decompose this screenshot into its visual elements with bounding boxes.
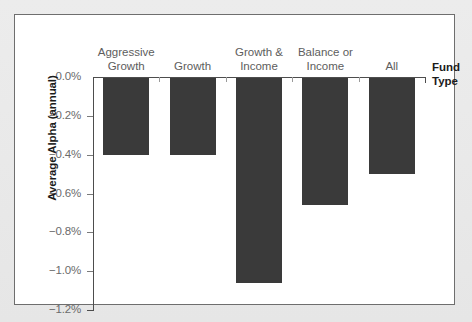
x-tick-mark	[159, 77, 160, 82]
category-label: Growth & Income	[226, 46, 292, 73]
y-tick-mark	[87, 155, 93, 156]
x-tick-mark	[359, 77, 360, 82]
category-label: Growth	[159, 60, 225, 74]
bar	[369, 78, 415, 174]
x-axis-end-tick	[425, 77, 426, 83]
bar	[170, 78, 216, 155]
y-tick-label: −1.0%	[19, 264, 81, 276]
x-tick-mark	[226, 77, 227, 82]
figure-background: −0.0%−0.2%−0.4%−0.6%−0.8%−1.0%−1.2% Aggr…	[0, 0, 472, 322]
y-axis-title: Average Alpha (annual)	[46, 58, 58, 218]
category-label: Balance or Income	[292, 46, 358, 73]
bar	[236, 78, 282, 283]
y-axis-line	[93, 77, 94, 311]
x-axis-title: Fund Type	[432, 61, 472, 88]
y-axis-bottom-tick	[87, 310, 94, 311]
y-tick-mark	[87, 232, 93, 233]
bar	[302, 78, 348, 205]
y-tick-mark	[87, 116, 93, 117]
y-tick-label: −0.8%	[19, 225, 81, 237]
x-tick-mark	[292, 77, 293, 82]
chart-panel: −0.0%−0.2%−0.4%−0.6%−0.8%−1.0%−1.2% Aggr…	[14, 14, 455, 305]
category-label: All	[359, 60, 425, 74]
category-label: Aggressive Growth	[93, 46, 159, 73]
y-tick-label: −1.2%	[19, 303, 81, 315]
y-tick-mark	[87, 194, 93, 195]
y-tick-mark	[87, 271, 93, 272]
bar	[103, 78, 149, 155]
